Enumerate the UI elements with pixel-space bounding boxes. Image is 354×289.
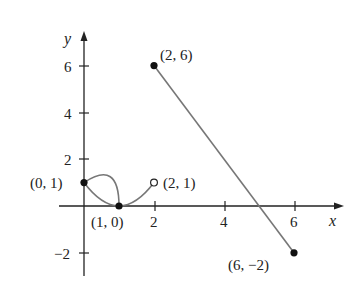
point-label-6-neg2: (6, −2): [228, 257, 269, 274]
tick-label-y-2: 2: [64, 152, 72, 168]
axes: [59, 38, 338, 276]
tick-label-y-4: 4: [64, 106, 72, 122]
point-2-6: [150, 62, 157, 69]
tick-label-y-6: 6: [64, 59, 72, 75]
point-label-2-1: (2, 1): [163, 175, 196, 192]
point-2-1-open: [151, 179, 158, 186]
tick-label-y-neg2: −2: [54, 246, 70, 262]
point-6-neg2: [290, 249, 297, 256]
tick-label-x-4: 4: [220, 214, 228, 230]
x-axis-arrow-icon: [334, 203, 344, 210]
parabola-curve: [84, 175, 154, 206]
y-axis-arrow-icon: [81, 31, 88, 41]
piecewise-function-graph: 2 4 6 6 4 2 −2 x y (0, 1) (1, 0) (2, 1) …: [0, 0, 354, 289]
point-1-0: [115, 202, 122, 209]
point-label-2-6: (2, 6): [160, 47, 193, 64]
tick-label-x-6: 6: [290, 214, 298, 230]
point-label-0-1: (0, 1): [30, 175, 63, 192]
y-axis-label: y: [62, 30, 72, 48]
x-axis-label: x: [328, 212, 336, 229]
point-label-1-0: (1, 0): [91, 214, 124, 231]
tick-label-x-2: 2: [150, 214, 158, 230]
point-0-1: [80, 179, 87, 186]
